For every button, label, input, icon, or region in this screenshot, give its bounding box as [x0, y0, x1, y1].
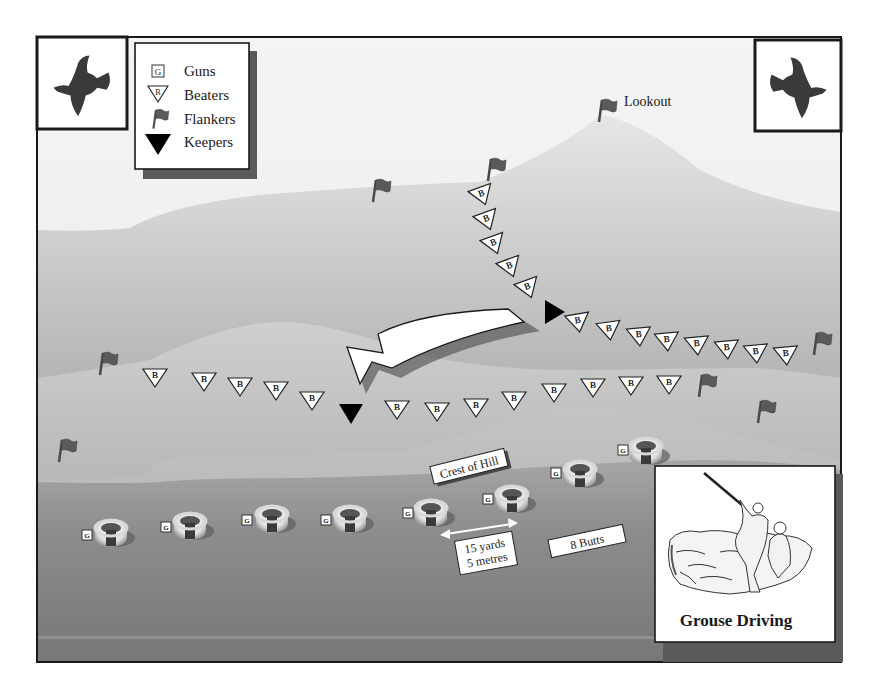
gun-box-icon: G — [242, 515, 252, 525]
svg-text:G: G — [84, 532, 89, 540]
svg-text:B: B — [273, 383, 279, 393]
gun-box-icon: G — [618, 445, 628, 455]
grouse-driving-diagram: B G — [0, 0, 876, 692]
svg-text:B: B — [663, 334, 670, 344]
svg-text:G: G — [323, 517, 328, 525]
svg-text:B: B — [511, 393, 517, 403]
svg-text:G: G — [155, 67, 162, 77]
svg-text:B: B — [693, 338, 700, 348]
svg-text:B: B — [666, 377, 672, 387]
svg-text:B: B — [152, 370, 158, 380]
svg-text:B: B — [723, 342, 730, 352]
svg-text:G: G — [485, 496, 490, 504]
svg-text:B: B — [473, 400, 479, 410]
svg-text:B: B — [201, 374, 207, 384]
legend-label-beaters: Beaters — [184, 87, 229, 103]
inset-caption: Grouse Driving — [680, 611, 793, 630]
legend-label-guns: Guns — [184, 63, 216, 79]
svg-text:G: G — [405, 510, 410, 518]
inset-illustration: Grouse Driving — [655, 466, 843, 662]
legend: G Guns B Beaters Flankers Keepers — [135, 43, 257, 179]
svg-text:G: G — [553, 470, 558, 478]
gun-box-icon: G — [161, 522, 171, 532]
svg-text:B: B — [590, 380, 596, 390]
svg-text:B: B — [752, 346, 759, 356]
lookout-label: Lookout — [624, 94, 672, 109]
svg-text:B: B — [309, 393, 315, 403]
svg-text:B: B — [635, 329, 642, 339]
gun-box-icon: G — [82, 530, 92, 540]
svg-text:B: B — [551, 385, 557, 395]
svg-text:B: B — [628, 378, 634, 388]
gun-box-icon: G — [403, 508, 413, 518]
svg-text:B: B — [434, 404, 440, 414]
svg-text:B: B — [237, 379, 243, 389]
gun-box-icon: G — [551, 468, 561, 478]
gun-box-icon: G — [483, 494, 493, 504]
svg-text:B: B — [155, 88, 160, 97]
gun-box-icon: G — [321, 515, 331, 525]
legend-label-flankers: Flankers — [184, 111, 236, 127]
legend-item-guns: G Guns — [152, 63, 216, 79]
legend-label-keepers: Keepers — [184, 134, 233, 150]
grouse-box-left — [37, 37, 127, 129]
svg-text:B: B — [394, 402, 400, 412]
svg-text:B: B — [782, 348, 789, 358]
svg-text:G: G — [244, 517, 249, 525]
svg-text:G: G — [163, 524, 168, 532]
svg-text:G: G — [620, 447, 625, 455]
gun-box-icon: G — [152, 65, 164, 77]
grouse-box-right — [755, 40, 841, 131]
